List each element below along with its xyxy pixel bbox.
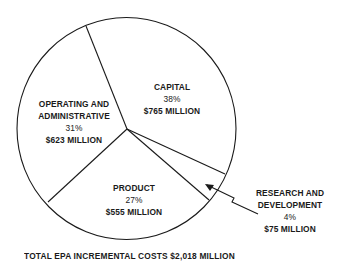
research-percent: 4%	[256, 211, 324, 223]
chart-caption: TOTAL EPA INCREMENTAL COSTS $2,018 MILLI…	[24, 250, 235, 261]
capital-amount: $765 MILLION	[144, 105, 200, 117]
capital-percent: 38%	[144, 93, 200, 105]
label-research: RESEARCH AND DEVELOPMENT 4% $75 MILLION	[256, 187, 324, 235]
research-amount: $75 MILLION	[256, 223, 324, 235]
product-name: PRODUCT	[106, 182, 162, 194]
operating-amount: $623 MILLION	[38, 134, 110, 146]
operating-percent: 31%	[38, 122, 110, 134]
label-product: PRODUCT 27% $555 MILLION	[106, 182, 162, 218]
operating-name-line1: OPERATING AND	[38, 98, 110, 110]
capital-name: CAPITAL	[144, 81, 200, 93]
research-name-line2: DEVELOPMENT	[256, 199, 324, 211]
product-amount: $555 MILLION	[106, 206, 162, 218]
product-percent: 27%	[106, 194, 162, 206]
label-operating: OPERATING AND ADMINISTRATIVE 31% $623 MI…	[38, 98, 110, 146]
research-name-line1: RESEARCH AND	[256, 187, 324, 199]
label-capital: CAPITAL 38% $765 MILLION	[144, 81, 200, 117]
operating-name-line2: ADMINISTRATIVE	[38, 110, 110, 122]
